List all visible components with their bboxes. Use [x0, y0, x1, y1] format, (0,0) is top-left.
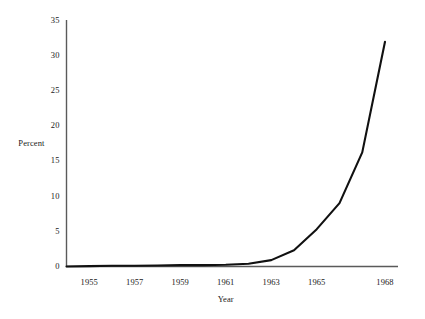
y-tick-label: 5 [55, 227, 59, 236]
plot-area [0, 0, 425, 319]
y-tick-label: 15 [51, 156, 60, 165]
x-tick-label: 1968 [365, 278, 405, 287]
x-tick-label: 1955 [69, 278, 109, 287]
x-tick-label: 1959 [160, 278, 200, 287]
y-tick-label: 35 [51, 16, 60, 25]
x-tick-label: 1957 [115, 278, 155, 287]
line-chart: 05101520253035 1955195719591961196319651… [0, 0, 425, 319]
x-axis-title: Year [186, 295, 266, 304]
x-tick-label: 1965 [297, 278, 337, 287]
y-tick-label: 30 [51, 51, 60, 60]
y-tick-label: 10 [51, 192, 60, 201]
x-tick-label: 1961 [206, 278, 246, 287]
x-tick-label: 1963 [251, 278, 291, 287]
y-tick-label: 20 [51, 121, 60, 130]
chart-background [0, 0, 425, 319]
y-tick-label: 25 [51, 86, 60, 95]
y-tick-label: 0 [55, 262, 59, 271]
y-axis-title: Percent [18, 139, 44, 148]
